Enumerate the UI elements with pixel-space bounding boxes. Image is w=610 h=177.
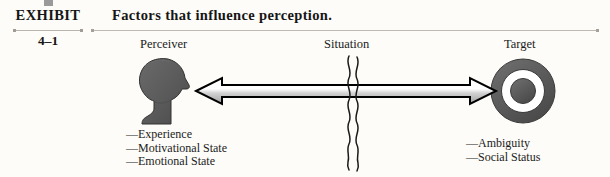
list-item: —Experience xyxy=(126,128,227,142)
target-factor-list: —Ambiguity —Social Status xyxy=(466,137,540,164)
double-headed-horizontal-arrow-icon xyxy=(196,78,496,104)
head-silhouette-icon xyxy=(139,59,189,124)
list-item: —Motivational State xyxy=(126,142,227,156)
exhibit-figure: EXHIBIT 4–1 Factors that influence perce… xyxy=(0,0,610,177)
wavy-vertical-line-icon xyxy=(348,56,359,171)
list-item: —Emotional State xyxy=(126,155,227,169)
list-item: —Ambiguity xyxy=(466,137,540,151)
bullseye-target-icon xyxy=(491,59,555,123)
perceiver-factor-list: —Experience —Motivational State —Emotion… xyxy=(126,128,227,169)
list-item: —Social Status xyxy=(466,151,540,165)
